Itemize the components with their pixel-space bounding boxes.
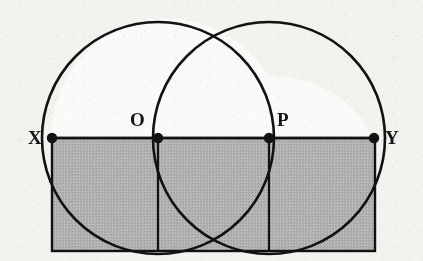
point-label-o: O [130,110,145,129]
point-y-marker [369,133,379,143]
figure-canvas [0,0,423,261]
point-label-y: Y [385,128,399,147]
point-p-marker [264,133,274,143]
shaded-rectangle-fill [52,138,375,251]
point-label-x: X [28,128,42,147]
point-label-p: P [277,110,289,129]
point-o-marker [153,133,163,143]
point-x-marker [47,133,57,143]
geometry-figure: X O P Y [0,0,423,261]
